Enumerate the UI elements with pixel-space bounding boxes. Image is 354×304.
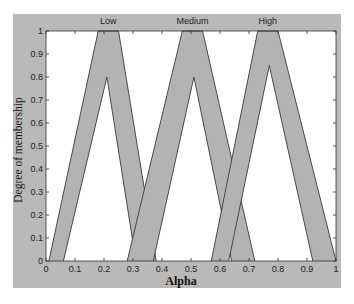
x-tick-label: 0.4 (156, 264, 169, 274)
y-tick-label: 0.2 (30, 210, 43, 220)
x-tick-label: 1 (333, 264, 338, 274)
x-tick-label: 0.6 (214, 264, 227, 274)
x-tick-label: 0.8 (272, 264, 285, 274)
x-tick-label: 0 (43, 264, 48, 274)
x-tick-label: 0.3 (127, 264, 140, 274)
y-tick-label: 1 (38, 26, 43, 36)
y-tick-label: 0.4 (30, 164, 43, 174)
y-axis-label: Degree of membership (12, 97, 25, 203)
x-tick-label: 0.9 (301, 264, 314, 274)
x-tick-label: 0.5 (185, 264, 198, 274)
y-tick-label: 0.6 (30, 118, 43, 128)
y-tick-label: 0.3 (30, 187, 43, 197)
y-tick-label: 0.5 (30, 141, 43, 151)
x-tick-label: 0.1 (69, 264, 82, 274)
y-tick-label: 0.9 (30, 49, 43, 59)
mf-label-low: Low (100, 16, 117, 26)
mf-label-high: High (259, 16, 278, 26)
membership-function-chart: 00.10.20.30.40.50.60.70.80.9100.10.20.30… (0, 0, 354, 304)
y-tick-label: 0.1 (30, 233, 43, 243)
x-tick-label: 0.2 (98, 264, 111, 274)
y-tick-label: 0.7 (30, 95, 43, 105)
y-tick-label: 0.8 (30, 72, 43, 82)
x-tick-label: 0.7 (243, 264, 256, 274)
mf-label-medium: Medium (176, 16, 208, 26)
y-tick-label: 0 (38, 256, 43, 266)
x-axis-label: Alpha (165, 274, 196, 288)
